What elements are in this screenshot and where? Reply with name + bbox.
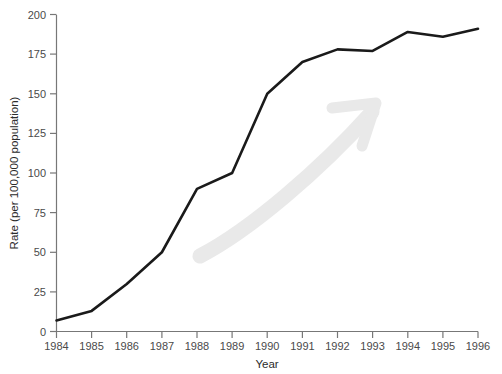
x-tick-label: 1990 <box>255 340 279 352</box>
line-chart: 0 25 50 75 100 125 150 175 200 <box>0 0 502 374</box>
y-axis-title: Rate (per 100,000 population) <box>8 96 20 249</box>
x-tick-label: 1985 <box>79 340 103 352</box>
x-tick-label: 1987 <box>150 340 174 352</box>
x-axis-tick-labels: 1984 1985 1986 1987 1988 1989 1990 1991 … <box>44 340 490 352</box>
y-axis-ticks <box>50 15 57 332</box>
y-tick-label: 125 <box>28 127 46 139</box>
y-tick-label: 200 <box>28 9 46 21</box>
x-tick-label: 1994 <box>396 340 420 352</box>
x-axis-ticks <box>57 332 479 339</box>
data-series-line <box>57 29 479 321</box>
x-tick-label: 1984 <box>44 340 68 352</box>
y-tick-label: 100 <box>28 167 46 179</box>
y-tick-label: 50 <box>34 246 46 258</box>
x-tick-label: 1995 <box>431 340 455 352</box>
x-tick-label: 1988 <box>185 340 209 352</box>
y-tick-label: 175 <box>28 48 46 60</box>
y-tick-label: 75 <box>34 207 46 219</box>
x-tick-label: 1993 <box>360 340 384 352</box>
x-tick-label: 1991 <box>290 340 314 352</box>
x-tick-label: 1986 <box>114 340 138 352</box>
x-tick-label: 1989 <box>220 340 244 352</box>
y-tick-label: 0 <box>40 326 46 338</box>
upward-trend-arrow-watermark <box>200 103 376 256</box>
y-tick-label: 25 <box>34 286 46 298</box>
x-axis-title: Year <box>255 358 278 370</box>
x-tick-label: 1992 <box>325 340 349 352</box>
y-tick-label: 150 <box>28 88 46 100</box>
chart-container: 0 25 50 75 100 125 150 175 200 <box>0 0 502 374</box>
x-tick-label: 1996 <box>466 340 490 352</box>
y-axis-tick-labels: 0 25 50 75 100 125 150 175 200 <box>28 9 46 338</box>
